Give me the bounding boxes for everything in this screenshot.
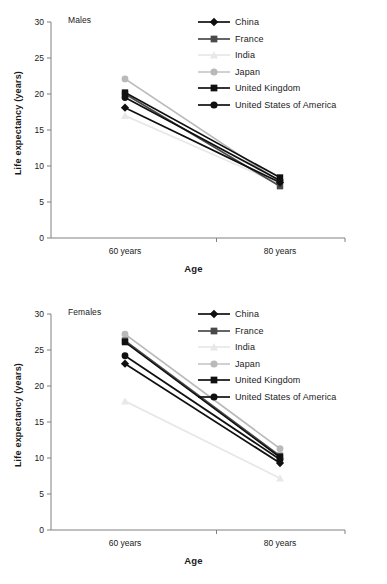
y-tick-label: 15 — [35, 125, 45, 135]
legend-label: India — [232, 342, 255, 352]
legend-label: Japan — [232, 67, 260, 77]
series-line — [125, 116, 280, 184]
legend-label: India — [232, 50, 255, 60]
y-tick-label: 25 — [35, 345, 45, 355]
data-point-circle — [210, 393, 217, 400]
series-india — [121, 397, 284, 481]
figure-root: 30252015105060 years80 years Males Life … — [0, 0, 387, 584]
x-axis-label-females: Age — [0, 555, 387, 566]
legend-marker-triangle-icon — [196, 48, 232, 62]
panel-title-females: Females — [68, 307, 101, 317]
legend-item-france[interactable]: France — [196, 323, 386, 340]
legend-marker-circle-icon — [196, 98, 232, 112]
legend-marker-square-icon — [196, 32, 232, 46]
data-point-circle — [122, 331, 129, 338]
series-line — [125, 108, 280, 183]
y-tick-label: 0 — [39, 525, 44, 535]
chart-panel-males: 30252015105060 years80 years Males Life … — [0, 0, 387, 292]
legend-item-india[interactable]: India — [196, 47, 386, 64]
legend-item-japan[interactable]: Japan — [196, 64, 386, 81]
data-point-square — [211, 85, 218, 92]
data-point-circle — [122, 94, 129, 101]
y-tick-label: 30 — [35, 309, 45, 319]
legend-label: France — [232, 326, 264, 336]
panel-title-males: Males — [68, 15, 91, 25]
legend-item-united-kingdom[interactable]: United Kingdom — [196, 372, 386, 389]
y-tick-label: 5 — [39, 197, 44, 207]
legend-marker-circle-icon — [196, 65, 232, 79]
legend-item-china[interactable]: China — [196, 306, 386, 323]
y-tick-label: 25 — [35, 53, 45, 63]
data-point-diamond — [210, 310, 219, 319]
data-point-triangle — [276, 474, 284, 481]
legend-label: United States of America — [232, 100, 336, 110]
y-tick-label: 15 — [35, 417, 45, 427]
data-point-triangle — [121, 112, 129, 119]
legend-marker-diamond-icon — [196, 15, 232, 29]
data-point-diamond — [121, 360, 129, 368]
y-tick-label: 0 — [39, 233, 44, 243]
data-point-diamond — [121, 104, 129, 112]
legend-label: Japan — [232, 359, 260, 369]
legend-label: United Kingdom — [232, 375, 300, 385]
legend-label: China — [232, 17, 259, 27]
y-axis-label-males: Life expectancy (years) — [13, 43, 23, 203]
data-point-square — [122, 339, 128, 345]
x-tick-label: 60 years — [109, 246, 142, 256]
legend-marker-circle-icon — [196, 357, 232, 371]
data-point-square — [211, 377, 218, 384]
x-tick-label: 60 years — [109, 538, 142, 548]
legend-item-united-kingdom[interactable]: United Kingdom — [196, 80, 386, 97]
y-axis-label-females: Life expectancy (years) — [13, 335, 23, 495]
data-point-circle — [122, 352, 129, 359]
x-tick-label: 80 years — [264, 538, 297, 548]
legend-marker-diamond-icon — [196, 307, 232, 321]
y-tick-label: 5 — [39, 489, 44, 499]
series-india — [121, 112, 284, 188]
data-point-circle — [210, 360, 217, 367]
data-point-square — [211, 327, 218, 334]
x-axis-label-males: Age — [0, 263, 387, 274]
legend-item-united-states-of-america[interactable]: United States of America — [196, 97, 386, 114]
y-tick-label: 10 — [35, 453, 45, 463]
legend-item-india[interactable]: India — [196, 339, 386, 356]
legend-marker-square-icon — [196, 81, 232, 95]
data-point-circle — [210, 68, 217, 75]
data-point-circle — [277, 445, 284, 452]
y-tick-label: 20 — [35, 381, 45, 391]
legend-marker-circle-icon — [196, 390, 232, 404]
legend-item-france[interactable]: France — [196, 31, 386, 48]
data-point-circle — [277, 177, 284, 184]
data-point-triangle — [121, 397, 129, 404]
legend-marker-triangle-icon — [196, 340, 232, 354]
x-tick-label: 80 years — [264, 246, 297, 256]
y-tick-label: 30 — [35, 17, 45, 27]
legend-label: France — [232, 34, 264, 44]
data-point-diamond — [210, 18, 219, 27]
legend-label: United States of America — [232, 392, 336, 402]
legend-marker-square-icon — [196, 324, 232, 338]
legend-item-china[interactable]: China — [196, 14, 386, 31]
legend-label: China — [232, 309, 259, 319]
data-point-square — [211, 35, 218, 42]
legend-item-japan[interactable]: Japan — [196, 356, 386, 373]
data-point-circle — [277, 456, 284, 463]
legend-marker-square-icon — [196, 373, 232, 387]
data-point-circle — [210, 101, 217, 108]
legend-females: ChinaFranceIndiaJapanUnited KingdomUnite… — [196, 306, 386, 405]
data-point-circle — [122, 75, 129, 82]
y-tick-label: 20 — [35, 89, 45, 99]
legend-item-united-states-of-america[interactable]: United States of America — [196, 389, 386, 406]
legend-label: United Kingdom — [232, 83, 300, 93]
chart-panel-females: 30252015105060 years80 years Females Lif… — [0, 292, 387, 584]
y-tick-label: 10 — [35, 161, 45, 171]
legend-males: ChinaFranceIndiaJapanUnited KingdomUnite… — [196, 14, 386, 113]
